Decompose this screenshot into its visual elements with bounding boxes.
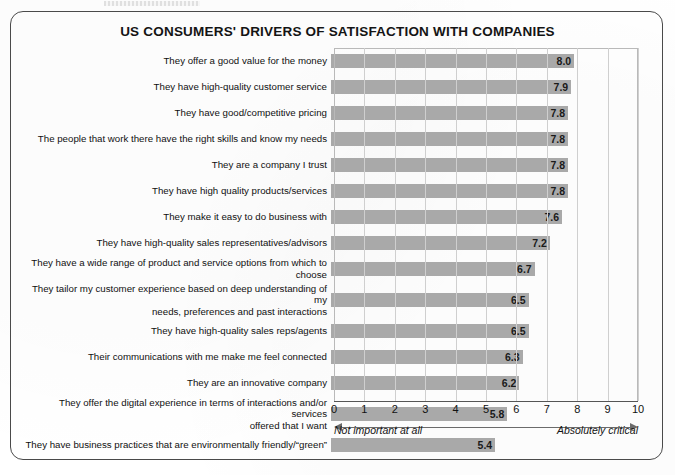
- category-label: They have high-quality customer service: [22, 81, 331, 93]
- x-axis-tick: 4: [453, 403, 459, 415]
- axis-caption-left: Not important at all: [334, 424, 422, 436]
- bar-value-label: 6.3: [331, 351, 523, 363]
- bar-cell: 7.8: [331, 100, 638, 126]
- x-axis-tick: 5: [483, 403, 489, 415]
- category-label: They offer a good value for the money: [22, 55, 331, 67]
- bar-value-label: 7.8: [331, 159, 568, 171]
- x-axis-tick: 2: [392, 403, 398, 415]
- category-label: The people that work there have the righ…: [22, 133, 331, 145]
- bar-row: They have high-quality sales reps/agents…: [22, 318, 638, 344]
- x-axis-tick: 7: [544, 403, 550, 415]
- bar-row: They make it easy to do business with7.6: [22, 204, 638, 230]
- bar-cell: 7.6: [331, 204, 638, 230]
- bar-value-label: 5.4: [331, 439, 495, 451]
- bar-cell: 7.2: [331, 230, 638, 256]
- x-axis-tick: 10: [632, 403, 644, 415]
- axis-caption-right: Absolutely critical: [557, 424, 638, 436]
- bar-value-label: 7.8: [331, 185, 568, 197]
- bar-cell: 6.7: [331, 256, 638, 282]
- category-label: They have high-quality sales representat…: [22, 237, 331, 249]
- x-axis-line: [334, 401, 638, 402]
- x-axis-tick: 3: [422, 403, 428, 415]
- category-label: They are a company I trust: [22, 159, 331, 171]
- bar-cell: 7.8: [331, 152, 638, 178]
- bar-row: They are an innovative company6.2: [22, 370, 638, 396]
- category-label: They have high quality products/services: [22, 185, 331, 197]
- x-axis-tick: 0: [331, 403, 337, 415]
- bar-row: They tailor my customer experience based…: [22, 282, 638, 318]
- bar-value-label: 6.5: [331, 325, 529, 337]
- bar-value-label: 7.8: [331, 133, 568, 145]
- bar-value-label: 7.9: [331, 81, 571, 93]
- bar-value-label: 7.8: [331, 107, 568, 119]
- x-axis-tick: 6: [513, 403, 519, 415]
- bar-value-label: 7.2: [331, 237, 550, 249]
- bar-row: They have high-quality sales representat…: [22, 230, 638, 256]
- bar-cell: 7.8: [331, 126, 638, 152]
- chart-title: US CONSUMERS' DRIVERS OF SATISFACTION WI…: [0, 24, 675, 39]
- bar-cell: 6.3: [331, 344, 638, 370]
- bar-cell: 6.5: [331, 282, 638, 318]
- category-label: They offer the digital experience in ter…: [22, 397, 331, 432]
- scan-artifact: [104, 1, 200, 6]
- category-label: They have good/competitive pricing: [22, 107, 331, 119]
- bar-row: They have good/competitive pricing7.8: [22, 100, 638, 126]
- bar-row: They have high-quality customer service7…: [22, 74, 638, 100]
- bar-rows: They offer a good value for the money8.0…: [22, 48, 638, 458]
- bar-cell: 6.5: [331, 318, 638, 344]
- bar-cell: 7.9: [331, 74, 638, 100]
- bar-row: They are a company I trust7.8: [22, 152, 638, 178]
- bar-cell: 6.2: [331, 370, 638, 396]
- category-label: They tailor my customer experience based…: [22, 283, 331, 318]
- bar-row: They have a wide range of product and se…: [22, 256, 638, 282]
- category-label: They are an innovative company: [22, 377, 331, 389]
- bar-cell: 8.0: [331, 48, 638, 74]
- category-label: They have high-quality sales reps/agents: [22, 325, 331, 337]
- category-label: Their communications with me make me fee…: [22, 351, 331, 363]
- bar-value-label: 8.0: [331, 55, 574, 67]
- bar-value-label: 5.8: [331, 408, 507, 420]
- category-label: They have business practices that are en…: [22, 439, 331, 451]
- bar-value-label: 6.5: [331, 294, 529, 306]
- bar-row: They have high quality products/services…: [22, 178, 638, 204]
- bar-row: Their communications with me make me fee…: [22, 344, 638, 370]
- bar-value-label: 7.6: [331, 211, 562, 223]
- bar-value-label: 6.7: [331, 263, 535, 275]
- x-axis-tick: 1: [361, 403, 367, 415]
- x-axis-tick: 8: [574, 403, 580, 415]
- category-label: They have a wide range of product and se…: [22, 257, 331, 280]
- bar-row: They offer a good value for the money8.0: [22, 48, 638, 74]
- axis-captions: Not important at all Absolutely critical: [334, 424, 638, 436]
- x-axis-tick: 9: [605, 403, 611, 415]
- bar-row: The people that work there have the righ…: [22, 126, 638, 152]
- bar-value-label: 6.2: [331, 377, 519, 389]
- bar-cell: 7.8: [331, 178, 638, 204]
- category-label: They make it easy to do business with: [22, 211, 331, 223]
